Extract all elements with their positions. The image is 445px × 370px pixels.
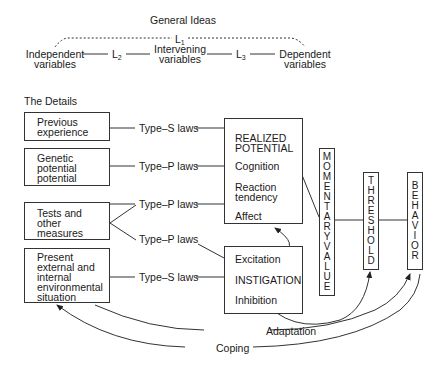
realized-potential-box: REALIZEDPOTENTIAL Cognition Reactiontend… — [224, 118, 303, 224]
instigation-box: Excitation INSTIGATION Inhibition — [224, 246, 303, 314]
momentary-value-box: MOMENTARYVALUE — [319, 148, 335, 296]
adaptation-label: Adaptation — [266, 326, 316, 336]
intervening-variables: Interveningvariables — [150, 44, 210, 64]
behavior-box: BEHAVIOR — [407, 172, 423, 270]
independent-variables: Independentvariables — [20, 49, 90, 69]
law-label: Type–S laws — [139, 272, 199, 282]
l2-label: L2 — [112, 49, 122, 63]
details-title: The Details — [24, 96, 77, 106]
previous-experience-box: Previousexperience — [24, 112, 110, 141]
general-ideas-title: General Ideas — [150, 15, 210, 25]
threshold-box: THRESHOLD — [363, 172, 379, 270]
tests-measures-box: Tests andothermeasures — [24, 202, 110, 240]
genetic-potential-box: Geneticpotentialpotential — [24, 148, 110, 186]
law-label: Type–P laws — [139, 199, 198, 209]
coping-label: Coping — [216, 343, 249, 353]
present-situation-box: Presentexternal andinternalenvironmental… — [24, 248, 110, 303]
law-label: Type–S laws — [139, 123, 199, 133]
dependent-variables: Dependentvariables — [275, 49, 335, 69]
law-label: Type–P laws — [139, 234, 198, 244]
l3-label: L3 — [236, 49, 246, 63]
law-label: Type–P laws — [139, 161, 198, 171]
